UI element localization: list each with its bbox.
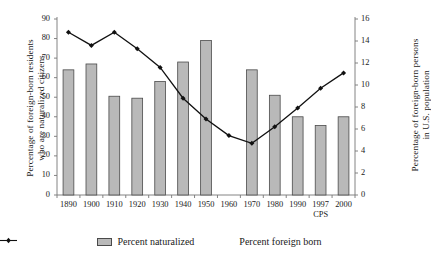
y-axis-left-tick-60: 60 [28,72,50,81]
y-axis-right-tick-0: 0 [361,190,383,199]
y-axis-left-tick-30: 30 [28,131,50,140]
bar-1990 [292,117,303,195]
y-axis-left-tick-90: 90 [28,14,50,23]
bar-1900 [86,64,97,195]
y-axis-right-tick-14: 14 [361,36,383,45]
bar-1970 [246,70,257,195]
y-axis-left-tick-10: 10 [28,170,50,179]
y-axis-left-tick-80: 80 [28,33,50,42]
y-axis-right-tick-16: 16 [361,14,383,23]
bar-2000 [338,117,349,195]
bar-1920 [132,98,143,195]
y-axis-right-tick-8: 8 [361,102,383,111]
y-axis-right-tick-2: 2 [361,168,383,177]
y-axis-left-tick-70: 70 [28,53,50,62]
y-axis-right-tick-4: 4 [361,146,383,155]
y-axis-left-tick-0: 0 [28,190,50,199]
y-axis-left-tick-50: 50 [28,92,50,101]
y-axis-right-tick-12: 12 [361,58,383,67]
bar-swatch-icon [97,238,112,246]
legend-item-percent-foreign-born: Percent foreign born [234,236,321,247]
y-axis-left-tick-20: 20 [28,150,50,159]
legend-label-percent-naturalized: Percent naturalized [117,236,194,247]
bar-1910 [109,96,120,195]
y-axis-left-tick-40: 40 [28,111,50,120]
bar-1940 [178,62,189,195]
y-axis-right-tick-10: 10 [361,80,383,89]
bar-1930 [155,82,166,195]
legend-item-percent-naturalized: Percent naturalized [97,236,194,247]
chart-legend: Percent naturalized Percent foreign born [0,236,419,247]
legend-label-percent-foreign-born: Percent foreign born [239,236,321,247]
x-axis-tick-sublabel-1997: CPS [304,210,338,219]
bar-1980 [269,95,280,195]
bar-1890 [63,70,74,195]
bar-1997 [315,126,326,195]
x-axis-tick-2000: 2000 [327,200,361,209]
y-axis-right-title-line2: in U.S. population [421,20,431,190]
y-axis-right-tick-6: 6 [361,124,383,133]
